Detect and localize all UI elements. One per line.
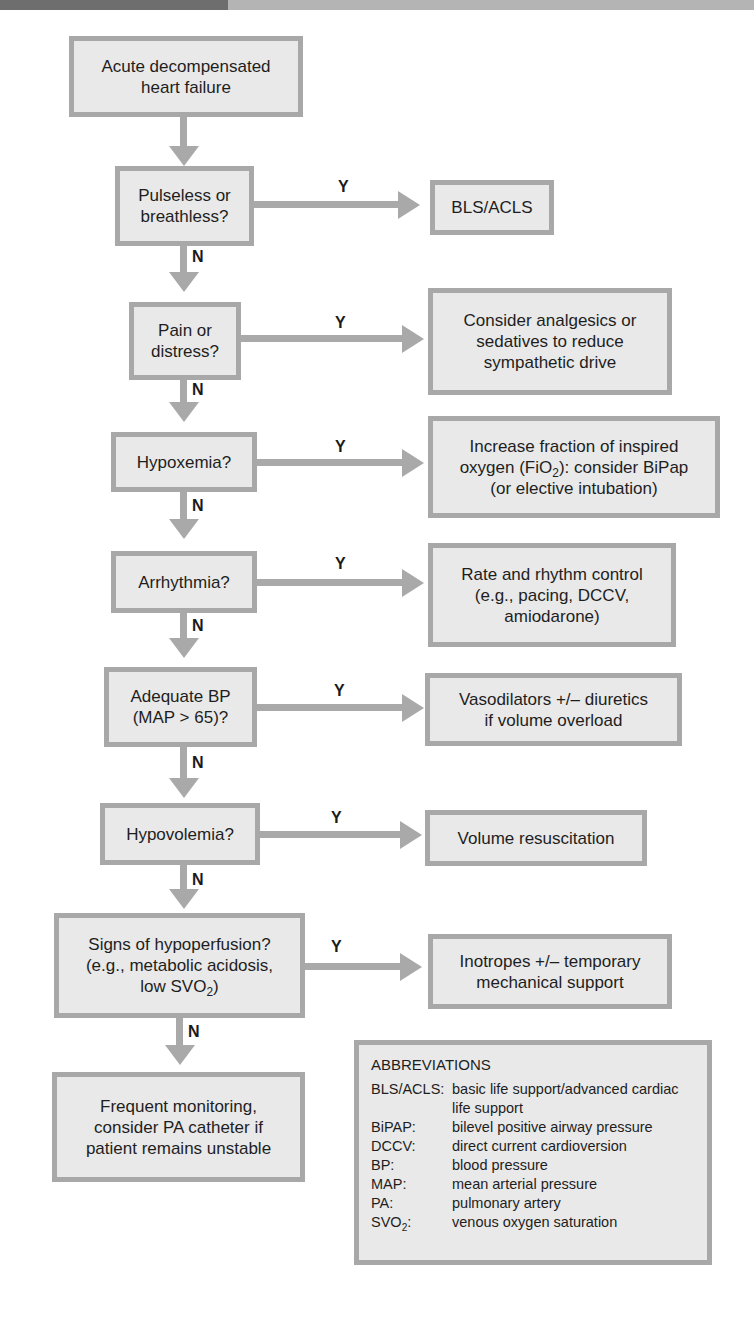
no-label: N bbox=[192, 497, 204, 515]
connector-yes bbox=[257, 459, 407, 466]
decision-hypovolemia: Hypovolemia? bbox=[100, 803, 260, 865]
action-text: Increase fraction of inspired oxygen (Fi… bbox=[460, 436, 689, 499]
action-text: Rate and rhythm control (e.g., pacing, D… bbox=[461, 564, 642, 627]
abbreviation-definition: venous oxygen saturation bbox=[452, 1213, 695, 1232]
abbreviation-term: BP: bbox=[371, 1156, 452, 1175]
action-volume-resuscitation: Volume resuscitation bbox=[425, 810, 647, 866]
arrow-right-icon bbox=[402, 569, 424, 597]
action-oxygen: Increase fraction of inspired oxygen (Fi… bbox=[428, 416, 720, 518]
decision-arrhythmia: Arrhythmia? bbox=[111, 551, 257, 613]
term-part: : bbox=[407, 1214, 411, 1230]
no-label: N bbox=[188, 1023, 200, 1041]
arrow-down-icon bbox=[169, 889, 199, 909]
arrow-down-icon bbox=[169, 638, 199, 658]
abbreviation-definition: pulmonary artery bbox=[452, 1194, 695, 1213]
action-analgesics: Consider analgesics or sedatives to redu… bbox=[428, 288, 672, 395]
decision-text: Hypoxemia? bbox=[137, 452, 232, 473]
arrow-down-icon bbox=[169, 519, 199, 539]
decision-text-part: Signs of hypoperfusion? (e.g., metabolic… bbox=[86, 935, 273, 996]
abbreviation-definition: basic life support/advanced cardiac life… bbox=[452, 1080, 695, 1118]
abbreviation-row: PA: pulmonary artery bbox=[371, 1194, 695, 1213]
decision-text: Pulseless or breathless? bbox=[138, 185, 231, 227]
abbreviation-row: BLS/ACLS: basic life support/advanced ca… bbox=[371, 1080, 695, 1118]
connector-yes bbox=[254, 201, 404, 208]
header-accent bbox=[0, 0, 228, 10]
header-bar bbox=[0, 0, 754, 10]
start-box: Acute decompensated heart failure bbox=[69, 36, 303, 117]
abbreviations-heading: ABBREVIATIONS bbox=[371, 1055, 695, 1074]
action-rate-rhythm: Rate and rhythm control (e.g., pacing, D… bbox=[428, 543, 676, 647]
no-label: N bbox=[192, 754, 204, 772]
connector-yes bbox=[241, 335, 407, 342]
abbreviation-definition: blood pressure bbox=[452, 1156, 695, 1175]
abbreviation-term: BiPAP: bbox=[371, 1118, 452, 1137]
abbreviation-definition: mean arterial pressure bbox=[452, 1175, 695, 1194]
no-label: N bbox=[192, 381, 204, 399]
arrow-right-icon bbox=[398, 191, 420, 219]
abbreviations-box: ABBREVIATIONS BLS/ACLS: basic life suppo… bbox=[354, 1040, 712, 1265]
yes-label: Y bbox=[338, 178, 349, 196]
connector-yes bbox=[257, 579, 407, 586]
decision-pain: Pain or distress? bbox=[129, 302, 241, 380]
connector-start-down bbox=[180, 117, 187, 149]
arrow-down-icon bbox=[169, 146, 199, 166]
no-label: N bbox=[192, 871, 204, 889]
abbreviation-row: DCCV: direct current cardioversion bbox=[371, 1137, 695, 1156]
decision-text: Hypovolemia? bbox=[126, 824, 234, 845]
abbreviation-term: DCCV: bbox=[371, 1137, 452, 1156]
arrow-down-icon bbox=[165, 1045, 195, 1065]
connector-yes bbox=[260, 831, 405, 838]
action-vasodilators: Vasodilators +/– diuretics if volume ove… bbox=[425, 673, 682, 746]
yes-label: Y bbox=[335, 555, 346, 573]
abbreviation-term: SVO2: bbox=[371, 1213, 452, 1232]
yes-label: Y bbox=[331, 809, 342, 827]
decision-text: Signs of hypoperfusion? (e.g., metabolic… bbox=[86, 934, 273, 997]
action-text: Volume resuscitation bbox=[458, 828, 615, 849]
decision-text: Arrhythmia? bbox=[138, 572, 230, 593]
arrow-down-icon bbox=[169, 272, 199, 292]
arrow-down-icon bbox=[169, 402, 199, 422]
action-inotropes: Inotropes +/– temporary mechanical suppo… bbox=[428, 934, 672, 1009]
abbreviation-term: BLS/ACLS: bbox=[371, 1080, 452, 1118]
arrow-down-icon bbox=[169, 778, 199, 798]
arrow-right-icon bbox=[402, 325, 424, 353]
no-label: N bbox=[192, 248, 204, 266]
yes-label: Y bbox=[335, 314, 346, 332]
action-text: Vasodilators +/– diuretics if volume ove… bbox=[459, 689, 648, 731]
end-text: Frequent monitoring, consider PA cathete… bbox=[86, 1096, 271, 1159]
arrow-right-icon bbox=[400, 953, 422, 981]
arrow-right-icon bbox=[402, 694, 424, 722]
abbreviation-row: MAP: mean arterial pressure bbox=[371, 1175, 695, 1194]
decision-hypoperfusion: Signs of hypoperfusion? (e.g., metabolic… bbox=[54, 913, 305, 1018]
action-text: Inotropes +/– temporary mechanical suppo… bbox=[460, 951, 641, 993]
decision-hypoxemia: Hypoxemia? bbox=[111, 432, 257, 492]
action-text: Consider analgesics or sedatives to redu… bbox=[464, 310, 637, 373]
decision-pulseless: Pulseless or breathless? bbox=[115, 166, 254, 246]
action-bls-acls: BLS/ACLS bbox=[430, 180, 554, 235]
connector-yes bbox=[257, 704, 407, 711]
no-label: N bbox=[192, 617, 204, 635]
connector-no bbox=[180, 492, 187, 522]
abbreviation-definition: direct current cardioversion bbox=[452, 1137, 695, 1156]
decision-text-part: ) bbox=[213, 977, 219, 996]
abbreviation-term: PA: bbox=[371, 1194, 452, 1213]
abbreviation-row: BiPAP: bilevel positive airway pressure bbox=[371, 1118, 695, 1137]
abbreviation-term: MAP: bbox=[371, 1175, 452, 1194]
decision-adequate-bp: Adequate BP (MAP > 65)? bbox=[104, 667, 257, 747]
yes-label: Y bbox=[335, 438, 346, 456]
arrow-right-icon bbox=[402, 449, 424, 477]
start-text: Acute decompensated heart failure bbox=[101, 56, 270, 98]
term-part: SVO bbox=[371, 1214, 402, 1230]
action-text: BLS/ACLS bbox=[451, 197, 532, 218]
abbreviation-row: BP: blood pressure bbox=[371, 1156, 695, 1175]
yes-label: Y bbox=[334, 682, 345, 700]
abbreviation-row: SVO2: venous oxygen saturation bbox=[371, 1213, 695, 1232]
arrow-right-icon bbox=[400, 821, 422, 849]
yes-label: Y bbox=[331, 938, 342, 956]
abbreviation-definition: bilevel positive airway pressure bbox=[452, 1118, 695, 1137]
decision-text: Adequate BP (MAP > 65)? bbox=[130, 686, 230, 728]
end-box: Frequent monitoring, consider PA cathete… bbox=[52, 1072, 305, 1182]
connector-yes bbox=[305, 963, 405, 970]
decision-text: Pain or distress? bbox=[151, 320, 219, 362]
